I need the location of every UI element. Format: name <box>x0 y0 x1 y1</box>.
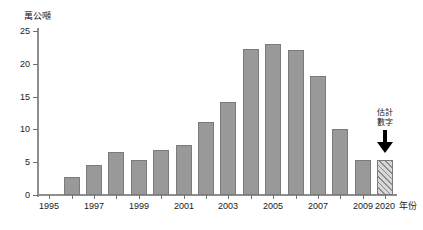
x-axis-tick <box>139 195 140 199</box>
x-axis-tick <box>363 195 364 199</box>
y-axis-unit-label: 萬公噸 <box>24 11 51 22</box>
y-axis-tick-label: 5 <box>6 158 30 167</box>
x-axis-tick-label: 2001 <box>169 201 199 211</box>
x-axis-tick <box>116 195 117 199</box>
bar-1997 <box>86 165 102 195</box>
bar-2020 <box>377 160 393 195</box>
bar-2003 <box>220 102 236 195</box>
x-axis-tick <box>251 195 252 199</box>
bar-2005 <box>265 44 281 195</box>
bar-1999 <box>131 160 147 195</box>
x-axis-tick <box>206 195 207 199</box>
x-axis-tick-label: 2007 <box>303 201 333 211</box>
x-axis-tick <box>94 195 95 199</box>
plot-area <box>38 31 395 195</box>
x-axis-tick <box>318 195 319 199</box>
x-axis-tick <box>49 195 50 199</box>
estimate-annotation-label: 估計 數字 <box>364 108 406 128</box>
x-axis-tick <box>273 195 274 199</box>
y-axis-tick-label: 25 <box>6 27 30 36</box>
x-axis-tick <box>184 195 185 199</box>
x-axis-tick-label: 1999 <box>124 201 154 211</box>
x-axis-tick <box>296 195 297 199</box>
y-axis-tick-label-text: 20 <box>8 60 30 69</box>
bar-2004 <box>243 49 259 195</box>
bar-2002 <box>198 122 214 195</box>
x-axis-tick <box>161 195 162 199</box>
y-axis-tick-label-text: 15 <box>8 93 30 102</box>
estimate-annotation: 估計 數字 <box>364 108 406 154</box>
x-axis-tick-label: 1997 <box>79 201 109 211</box>
down-arrow-icon <box>373 130 397 154</box>
x-axis-tick-label: 2020 <box>370 201 400 211</box>
y-axis-tick-label-text: 5 <box>8 158 30 167</box>
y-axis-tick-label: 15 <box>6 93 30 102</box>
x-axis-tick <box>228 195 229 199</box>
bar-1996 <box>64 177 80 195</box>
x-axis-tick <box>340 195 341 199</box>
bar-2007 <box>310 76 326 195</box>
bar-2006 <box>288 50 304 195</box>
x-axis-caption-label: 年份 <box>399 201 417 211</box>
x-axis-tick-label: 2003 <box>213 201 243 211</box>
bar-chart-figure: 萬公噸 0510152025 1995199719992001200320052… <box>0 0 423 230</box>
y-axis-tick <box>33 195 38 196</box>
bar-2008 <box>332 129 348 195</box>
y-axis-tick-label: 10 <box>6 125 30 134</box>
bar-1998 <box>108 152 124 195</box>
bar-2000 <box>153 150 169 195</box>
y-axis-tick-label: 0 <box>6 191 30 200</box>
x-axis-tick <box>385 195 386 199</box>
x-axis-tick-label: 1995 <box>34 201 64 211</box>
x-axis-tick <box>72 195 73 199</box>
bar-2009 <box>355 160 371 195</box>
y-axis-tick-label: 20 <box>6 60 30 69</box>
bar-2001 <box>176 145 192 196</box>
y-axis-tick-label-text: 10 <box>8 125 30 134</box>
x-axis-tick-label: 2005 <box>258 201 288 211</box>
y-axis-tick-label-text: 25 <box>8 27 30 36</box>
y-axis-tick-label-text: 0 <box>8 191 30 200</box>
